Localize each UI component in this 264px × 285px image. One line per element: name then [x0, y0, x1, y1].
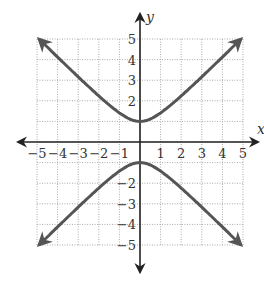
x-tick-label: 4 [218, 146, 226, 161]
tick-labels: −5−4−3−2−1123455432−2−3−4−5xy [27, 9, 264, 253]
y-axis-label: y [145, 9, 155, 25]
y-tick-label: 2 [128, 94, 136, 109]
y-tick-label: 3 [128, 73, 136, 88]
y-tick-label: −5 [117, 238, 136, 253]
x-tick-label: 2 [177, 146, 185, 161]
x-tick-label: 5 [239, 146, 247, 161]
x-tick-label: −4 [48, 146, 67, 161]
y-tick-label: 4 [128, 53, 136, 68]
x-tick-label: 1 [156, 146, 164, 161]
y-tick-label: −4 [117, 217, 136, 232]
hyperbola-graph: −5−4−3−2−1123455432−2−3−4−5xy [0, 0, 264, 285]
x-tick-label: 3 [198, 146, 206, 161]
y-tick-label: 5 [128, 32, 136, 47]
y-tick-label: −2 [117, 176, 136, 191]
x-tick-label: −5 [27, 146, 46, 161]
x-tick-label: −3 [69, 146, 88, 161]
x-tick-label: −2 [89, 146, 108, 161]
y-tick-label: −3 [117, 197, 136, 212]
x-axis-label: x [257, 121, 264, 137]
x-tick-label: −1 [110, 146, 129, 161]
